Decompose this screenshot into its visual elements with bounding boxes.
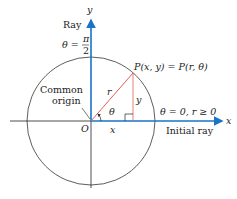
x-leg-label: x (110, 124, 116, 135)
x-axis-label: x (226, 115, 232, 126)
right-angle-marker (125, 114, 133, 121)
initial-ray-condition: θ = 0, r ≥ 0 (160, 106, 216, 117)
ray-theta-denominator: 2 (83, 45, 89, 56)
initial-ray-label: Initial ray (166, 125, 214, 136)
theta-arc (98, 114, 101, 121)
origin-label: O (81, 123, 89, 134)
y-leg-label: y (135, 94, 142, 105)
ray-theta-prefix: θ = (62, 39, 79, 50)
point-label: P(x, y) = P(r, θ) (133, 61, 208, 72)
theta-label: θ (109, 106, 115, 117)
ray-label: Ray (63, 19, 82, 30)
common-origin-label-1: Common (40, 84, 83, 95)
y-axis-label: y (86, 4, 93, 15)
r-label: r (107, 86, 113, 97)
common-origin-label-2: origin (52, 95, 81, 106)
common-origin-pointer (82, 108, 90, 119)
polar-coordinates-diagram: y x O Ray θ = π 2 Common origin P(x, y) … (0, 0, 237, 199)
ray-theta-numerator: π (82, 33, 90, 44)
